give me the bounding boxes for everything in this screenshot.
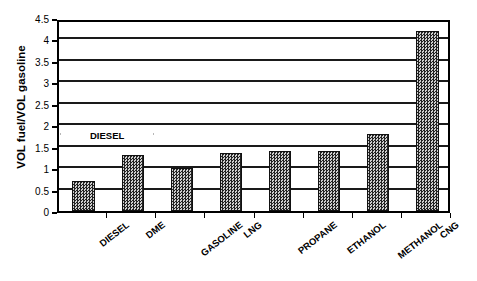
x-tick-mark [401, 213, 402, 218]
x-label-dme: DME [143, 219, 166, 241]
x-tick-mark [204, 213, 205, 218]
bar-chart-figure: VOL fuel/VOL gasoline 00.511.522.533.544… [0, 0, 477, 281]
diesel-range-annotation: DIESEL [61, 129, 153, 143]
x-tick-mark [303, 213, 304, 218]
x-label-ethanol: ETHANOL [345, 219, 388, 256]
x-tick-mark [450, 213, 451, 218]
x-label-gasoline: GASOLINE [198, 219, 244, 258]
x-tick-mark [155, 213, 156, 218]
x-tick-mark [106, 213, 107, 218]
x-label-methanol: METHANOL [396, 219, 445, 261]
x-label-propane: PROPANE [296, 219, 339, 256]
x-label-lng: LNG [241, 219, 264, 240]
x-tick-mark [352, 213, 353, 218]
x-tick-mark [254, 213, 255, 218]
x-label-diesel: DIESEL [97, 219, 131, 249]
diesel-range-label: DIESEL [61, 129, 153, 142]
x-label-cng: CNG [438, 219, 461, 241]
